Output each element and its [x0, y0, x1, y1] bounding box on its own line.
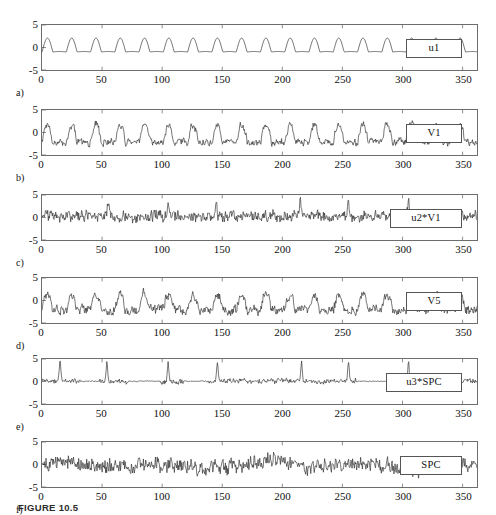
x-tick-label: 50	[96, 327, 107, 338]
legend-label: u1	[429, 43, 440, 54]
y-tick-label: 0	[4, 212, 38, 223]
y-tick-label: 0	[4, 127, 38, 138]
legend-box-d: V5	[406, 292, 462, 311]
plot-axes-c: u2*V1	[41, 194, 478, 241]
x-tick-label: 150	[214, 327, 231, 338]
x-tick-label: 150	[214, 244, 231, 255]
x-tick-label: 100	[153, 74, 170, 85]
legend-box-c: u2*V1	[390, 209, 462, 228]
x-tick-label: 250	[335, 408, 352, 419]
x-tick-label: 150	[214, 159, 231, 170]
y-tick-label: 5	[4, 272, 38, 283]
x-tick-label: 350	[455, 327, 472, 338]
x-tick-label: 350	[455, 74, 472, 85]
plot-axes-e: u3*SPC	[41, 358, 478, 405]
plot-axes-d: V5	[41, 277, 478, 324]
x-tick-label: 150	[214, 74, 231, 85]
y-tick-label: 0	[4, 459, 38, 470]
plot-axes-a: u1	[41, 24, 478, 71]
y-tick-label: 5	[4, 104, 38, 115]
legend-label: V5	[427, 296, 440, 307]
x-tick-label: 300	[395, 491, 412, 502]
x-tick-label: 100	[153, 327, 170, 338]
x-tick-label: 150	[214, 491, 231, 502]
x-tick-label: 200	[274, 327, 291, 338]
x-tick-label: 200	[274, 159, 291, 170]
y-tick-label: 0	[4, 42, 38, 53]
y-tick-label: -5	[4, 235, 38, 246]
x-tick-label: 100	[153, 244, 170, 255]
x-tick-label: 250	[335, 244, 352, 255]
panel-letter-d: d)	[16, 341, 24, 351]
x-tick-label: 0	[38, 327, 44, 338]
x-tick-label: 250	[335, 74, 352, 85]
x-tick-label: 200	[274, 244, 291, 255]
legend-label: u3*SPC	[406, 377, 442, 388]
x-tick-label: 300	[395, 159, 412, 170]
panel-letter-b: b)	[16, 173, 24, 183]
x-tick-label: 50	[96, 408, 107, 419]
legend-box-b: V1	[406, 124, 462, 143]
x-tick-label: 100	[153, 408, 170, 419]
x-tick-label: 100	[153, 159, 170, 170]
x-tick-label: 350	[455, 408, 472, 419]
x-tick-label: 250	[335, 327, 352, 338]
panel-letter-c: c)	[16, 258, 24, 268]
x-tick-label: 350	[455, 159, 472, 170]
legend-label: u2*V1	[411, 213, 441, 224]
x-tick-label: 200	[274, 491, 291, 502]
x-tick-label: 200	[274, 74, 291, 85]
y-tick-label: 0	[4, 376, 38, 387]
x-tick-label: 250	[335, 491, 352, 502]
panel-letter-a: a)	[16, 88, 24, 98]
x-tick-label: 150	[214, 408, 231, 419]
y-tick-label: 5	[4, 189, 38, 200]
x-tick-label: 100	[153, 491, 170, 502]
x-tick-label: 50	[96, 74, 107, 85]
figure-caption: FIGURE 10.5	[18, 503, 78, 511]
x-tick-label: 300	[395, 408, 412, 419]
y-tick-label: 5	[4, 353, 38, 364]
y-tick-label: -5	[4, 399, 38, 410]
y-tick-label: -5	[4, 65, 38, 76]
plot-axes-f: SPC	[41, 441, 478, 488]
legend-box-e: u3*SPC	[386, 373, 462, 392]
x-tick-label: 50	[96, 159, 107, 170]
legend-box-a: u1	[406, 39, 462, 58]
y-tick-label: -5	[4, 318, 38, 329]
x-tick-label: 350	[455, 244, 472, 255]
x-tick-label: 300	[395, 74, 412, 85]
y-tick-label: -5	[4, 482, 38, 493]
y-tick-label: 5	[4, 436, 38, 447]
x-tick-label: 0	[38, 244, 44, 255]
x-tick-label: 200	[274, 408, 291, 419]
panel-letter-e: e)	[16, 422, 24, 432]
x-tick-label: 0	[38, 74, 44, 85]
x-tick-label: 50	[96, 491, 107, 502]
x-tick-label: 350	[455, 491, 472, 502]
x-tick-label: 250	[335, 159, 352, 170]
legend-label: V1	[427, 128, 440, 139]
legend-box-f: SPC	[400, 456, 462, 475]
y-tick-label: 0	[4, 295, 38, 306]
x-tick-label: 50	[96, 244, 107, 255]
x-tick-label: 300	[395, 244, 412, 255]
x-tick-label: 0	[38, 408, 44, 419]
x-tick-label: 0	[38, 491, 44, 502]
x-tick-label: 300	[395, 327, 412, 338]
x-tick-label: 0	[38, 159, 44, 170]
y-tick-label: -5	[4, 150, 38, 161]
y-tick-label: 5	[4, 19, 38, 30]
legend-label: SPC	[421, 460, 440, 471]
plot-axes-b: V1	[41, 109, 478, 156]
